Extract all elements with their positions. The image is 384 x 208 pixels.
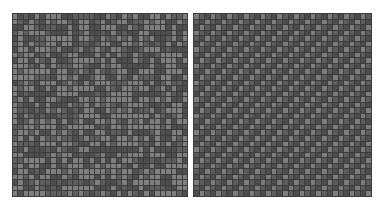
pattern-cell xyxy=(294,147,299,152)
pattern-cell xyxy=(233,191,238,196)
pattern-cell xyxy=(29,191,33,196)
pattern-cell xyxy=(106,158,110,163)
pattern-cell xyxy=(244,108,249,113)
pattern-cell xyxy=(133,175,137,180)
pattern-cell xyxy=(183,191,187,196)
pattern-cell xyxy=(311,20,316,25)
pattern-cell xyxy=(57,153,61,158)
pattern-cell xyxy=(29,164,33,169)
pattern-cell xyxy=(244,175,249,180)
pattern-cell xyxy=(222,47,227,52)
pattern-cell xyxy=(339,81,344,86)
pattern-cell xyxy=(144,153,148,158)
pattern-cell xyxy=(211,147,216,152)
pattern-cell xyxy=(155,147,159,152)
pattern-cell xyxy=(355,186,360,191)
pattern-cell xyxy=(46,86,50,91)
pattern-cell xyxy=(122,75,126,80)
pattern-cell xyxy=(266,130,271,135)
pattern-cell xyxy=(133,108,137,113)
pattern-cell xyxy=(29,153,33,158)
pattern-cell xyxy=(316,158,321,163)
pattern-cell xyxy=(305,114,310,119)
pattern-cell xyxy=(344,180,349,185)
pattern-cell xyxy=(283,180,288,185)
pattern-cell xyxy=(144,119,148,124)
pattern-cell xyxy=(277,58,282,63)
pattern-cell xyxy=(300,81,305,86)
pattern-cell xyxy=(24,119,28,124)
pattern-cell xyxy=(166,47,170,52)
pattern-cell xyxy=(239,186,244,191)
pattern-cell xyxy=(172,25,176,30)
pattern-cell xyxy=(350,136,355,141)
pattern-cell xyxy=(68,186,72,191)
pattern-cell xyxy=(155,81,159,86)
pattern-cell xyxy=(95,92,99,97)
pattern-cell xyxy=(233,164,238,169)
pattern-cell xyxy=(261,53,266,58)
pattern-cell xyxy=(13,186,17,191)
pattern-cell xyxy=(311,42,316,47)
pattern-cell xyxy=(51,103,55,108)
pattern-cell xyxy=(316,20,321,25)
pattern-cell xyxy=(350,25,355,30)
pattern-cell xyxy=(222,169,227,174)
pattern-cell xyxy=(255,158,260,163)
pattern-cell xyxy=(95,142,99,147)
pattern-cell xyxy=(18,142,22,147)
pattern-cell xyxy=(150,180,154,185)
pattern-cell xyxy=(95,47,99,52)
pattern-cell xyxy=(46,53,50,58)
pattern-cell xyxy=(35,42,39,47)
pattern-cell xyxy=(122,36,126,41)
pattern-cell xyxy=(239,114,244,119)
pattern-cell xyxy=(68,114,72,119)
pattern-cell xyxy=(300,14,305,19)
pattern-cell xyxy=(355,164,360,169)
pattern-cell xyxy=(68,103,72,108)
pattern-cell xyxy=(62,92,66,97)
pattern-cell xyxy=(277,164,282,169)
pattern-cell xyxy=(57,175,61,180)
pattern-cell xyxy=(266,81,271,86)
pattern-cell xyxy=(90,158,94,163)
pattern-cell xyxy=(316,14,321,19)
pattern-cell xyxy=(250,186,255,191)
pattern-cell xyxy=(29,103,33,108)
pattern-cell xyxy=(261,58,266,63)
pattern-cell xyxy=(73,81,77,86)
pattern-cell xyxy=(144,58,148,63)
pattern-cell xyxy=(200,64,205,69)
pattern-cell xyxy=(46,92,50,97)
pattern-cell xyxy=(366,75,371,80)
pattern-cell xyxy=(106,36,110,41)
pattern-cell xyxy=(68,97,72,102)
pattern-cell xyxy=(277,175,282,180)
pattern-cell xyxy=(294,180,299,185)
pattern-cell xyxy=(133,64,137,69)
pattern-cell xyxy=(227,125,232,130)
pattern-cell xyxy=(333,36,338,41)
pattern-cell xyxy=(222,36,227,41)
pattern-cell xyxy=(266,75,271,80)
pattern-cell xyxy=(161,108,165,113)
pattern-cell xyxy=(79,158,83,163)
pattern-cell xyxy=(46,25,50,30)
pattern-cell xyxy=(95,31,99,36)
pattern-cell xyxy=(51,186,55,191)
pattern-cell xyxy=(177,31,181,36)
pattern-cell xyxy=(277,92,282,97)
pattern-cell xyxy=(101,119,105,124)
pattern-cell xyxy=(155,191,159,196)
pattern-cell xyxy=(222,125,227,130)
pattern-cell xyxy=(239,180,244,185)
pattern-cell xyxy=(322,153,327,158)
pattern-cell xyxy=(18,130,22,135)
pattern-cell xyxy=(283,58,288,63)
pattern-cell xyxy=(161,31,165,36)
pattern-cell xyxy=(46,36,50,41)
pattern-cell xyxy=(344,92,349,97)
pattern-cell xyxy=(90,81,94,86)
pattern-cell xyxy=(29,20,33,25)
